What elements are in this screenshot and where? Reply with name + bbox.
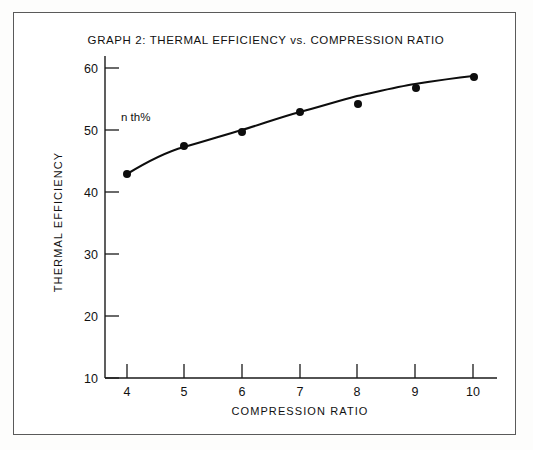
data-point-8: [354, 100, 362, 108]
x-tick-label-7: 7: [297, 385, 304, 399]
data-point-9: [412, 84, 420, 92]
data-point-4: [123, 170, 131, 178]
x-tick-label-10: 10: [466, 385, 480, 399]
x-tick-label-8: 8: [354, 385, 361, 399]
chart-title: GRAPH 2: THERMAL EFFICIENCY vs. COMPRESS…: [88, 34, 445, 46]
x-tick-label-6: 6: [239, 385, 246, 399]
y-tick-label-20: 20: [84, 310, 98, 324]
chart-container: GRAPH 2: THERMAL EFFICIENCY vs. COMPRESS…: [0, 0, 533, 450]
data-point-10: [470, 73, 478, 81]
x-tick-label-4: 4: [124, 385, 131, 399]
y-tick-label-40: 40: [84, 186, 98, 200]
trend-curve: [127, 76, 473, 174]
data-point-7: [296, 108, 304, 116]
y-tick-label-30: 30: [84, 248, 98, 262]
y-tick-label-10: 10: [84, 372, 98, 386]
data-points: [123, 73, 478, 178]
thermal-efficiency-chart: GRAPH 2: THERMAL EFFICIENCY vs. COMPRESS…: [0, 0, 533, 450]
efficiency-symbol-annotation: n th%: [121, 111, 150, 123]
x-axis-ticks: [127, 364, 473, 378]
y-axis-label: THERMAL EFFICIENCY: [52, 152, 64, 292]
x-axis-label: COMPRESSION RATIO: [231, 405, 368, 417]
x-axis-tick-labels: 4 5 6 7 8 9 10: [124, 385, 480, 399]
page-root: GRAPH 2: THERMAL EFFICIENCY vs. COMPRESS…: [0, 0, 533, 450]
y-tick-label-60: 60: [84, 62, 98, 76]
x-tick-label-9: 9: [412, 385, 419, 399]
data-point-5: [180, 142, 188, 150]
y-tick-label-50: 50: [84, 124, 98, 138]
x-tick-label-5: 5: [181, 385, 188, 399]
y-axis-tick-labels: 60 50 40 30 20 10: [84, 62, 98, 386]
y-axis-ticks: [105, 68, 119, 378]
data-point-6: [238, 128, 246, 136]
